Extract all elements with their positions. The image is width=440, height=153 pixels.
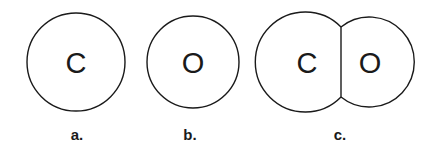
figure-c: C O c.: [255, 12, 414, 143]
molecule-carbon-symbol: C: [297, 47, 318, 79]
diagram-svg: C a. O b. C O c.: [0, 0, 440, 153]
molecule-oxygen-symbol: O: [359, 47, 382, 79]
diagram-canvas: C a. O b. C O c.: [0, 0, 440, 153]
oxygen-symbol: O: [182, 47, 205, 79]
figure-b: O b.: [147, 16, 239, 143]
figure-a-label: a.: [71, 126, 84, 143]
figure-b-label: b.: [183, 126, 196, 143]
figure-a: C a.: [27, 13, 125, 143]
carbon-symbol: C: [66, 47, 87, 79]
figure-c-label: c.: [334, 126, 347, 143]
